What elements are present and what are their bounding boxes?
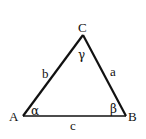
angle-beta-label: β bbox=[110, 102, 117, 116]
triangle-diagram: A B C a b c α β γ bbox=[0, 0, 146, 139]
side-c-label: c bbox=[70, 118, 76, 133]
angle-alpha-label: α bbox=[31, 104, 39, 118]
angle-gamma-label: γ bbox=[78, 48, 85, 62]
vertex-a-label: A bbox=[9, 109, 19, 124]
side-b-label: b bbox=[42, 66, 49, 81]
side-a-line bbox=[83, 35, 126, 116]
side-a-label: a bbox=[110, 64, 116, 79]
vertex-c-label: C bbox=[78, 20, 87, 35]
vertex-b-label: B bbox=[128, 109, 137, 124]
